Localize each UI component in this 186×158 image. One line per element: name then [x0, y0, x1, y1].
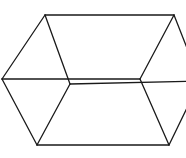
- edge-bottom-right-to-right: [169, 81, 186, 145]
- edge-top-left-to-inner-left: [45, 15, 70, 84]
- wireframe-box-figure: [0, 0, 186, 158]
- edge-top-right-to-right: [174, 15, 186, 81]
- edge-inner-left-to-right: [70, 81, 186, 84]
- edge-inner-right-to-bottom-right: [140, 79, 169, 145]
- edge-inner-left-to-bottom-left: [37, 84, 70, 145]
- edge-left-to-bottom-left: [2, 79, 37, 145]
- edge-top-left-to-left: [2, 15, 45, 79]
- box-diagram: [0, 0, 186, 158]
- edge-top-right-to-inner-right: [140, 15, 174, 79]
